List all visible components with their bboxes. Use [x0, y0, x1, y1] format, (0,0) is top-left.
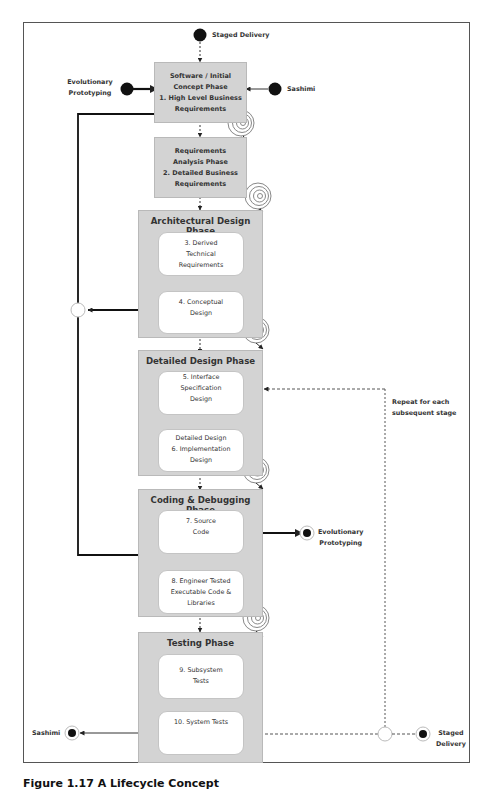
step-conceptual-design: 4. Conceptual Design	[158, 291, 244, 334]
phase-title: Detailed Design Phase	[139, 356, 262, 366]
text-line: Tests	[193, 676, 209, 687]
text-line: 8. Engineer Tested	[171, 576, 230, 587]
step-implementation-design: Detailed Design 6. Implementation Design	[158, 429, 244, 472]
phase-detailed-design: Detailed Design Phase 5. Interface Speci…	[138, 350, 263, 476]
text-line: Design	[190, 308, 212, 319]
text-line: 3. Derived	[184, 238, 217, 249]
step-system-tests: 10. System Tests	[158, 711, 244, 755]
text-line: Software / Initial	[170, 71, 231, 82]
step-interface-specification-design: 5. Interface Specification Design	[158, 371, 244, 415]
label-line: Delivery	[436, 739, 466, 750]
text-line: Detailed Design	[176, 433, 227, 444]
label-line: Prototyping	[318, 538, 363, 549]
label-line: Evolutionary	[66, 77, 114, 88]
text-line: 4. Conceptual	[179, 297, 223, 308]
staged-delivery-bottom-label: Staged Delivery	[436, 728, 466, 750]
text-line: Libraries	[187, 598, 215, 609]
phase-requirements-analysis: Requirements Analysis Phase 2. Detailed …	[154, 137, 247, 198]
text-line: Design	[190, 394, 212, 405]
label-line: Repeat for each	[392, 397, 456, 408]
text-line: Requirements	[175, 179, 226, 190]
step-source-code: 7. Source Code	[158, 510, 244, 554]
text-line: Analysis Phase	[173, 157, 228, 168]
label-line: subsequent stage	[392, 408, 456, 419]
text-line: 7. Source	[186, 516, 216, 527]
text-line: Requirements	[175, 146, 226, 157]
phase-text: Software / Initial Concept Phase 1. High…	[155, 66, 246, 119]
text-line: 10. System Tests	[174, 717, 228, 728]
text-line: Specification	[180, 383, 221, 394]
staged-delivery-top-label: Staged Delivery	[212, 30, 270, 41]
text-line: Requirements	[179, 260, 223, 271]
phase-text: Requirements Analysis Phase 2. Detailed …	[155, 141, 246, 194]
text-line: Requirements	[175, 104, 226, 115]
phase-title: Testing Phase	[139, 638, 262, 648]
text-line: 2. Detailed Business	[163, 168, 238, 179]
step-derived-technical-requirements: 3. Derived Technical Requirements	[158, 232, 244, 276]
text-line: Concept Phase	[173, 82, 227, 93]
step-engineer-tested-code: 8. Engineer Tested Executable Code & Lib…	[158, 570, 244, 614]
text-line: 5. Interface	[183, 372, 220, 383]
text-line: 6. Implementation	[172, 444, 231, 455]
step-subsystem-tests: 9. Subsystem Tests	[158, 654, 244, 699]
text-line: 9. Subsystem	[179, 665, 222, 676]
text-line: Technical	[186, 249, 215, 260]
label-line: Prototyping	[66, 88, 114, 99]
repeat-note: Repeat for each subsequent stage	[392, 397, 456, 419]
phase-architectural-design: Architectural Design Phase 3. Derived Te…	[138, 210, 263, 338]
text-line: Code	[193, 527, 209, 538]
phase-initial-concept: Software / Initial Concept Phase 1. High…	[154, 62, 247, 123]
label-line: Staged	[436, 728, 466, 739]
phase-coding-debugging: Coding & Debugging Phase 7. Source Code …	[138, 489, 263, 617]
phase-testing: Testing Phase 9. Subsystem Tests 10. Sys…	[138, 632, 263, 763]
label-line: Evolutionary	[318, 527, 363, 538]
staged-delivery-top-dot	[194, 29, 207, 42]
sashimi-exit-label: Sashimi	[32, 728, 60, 739]
figure-caption: Figure 1.17 A Lifecycle Concept	[23, 777, 219, 790]
evolutionary-prototyping-exit-label: Evolutionary Prototyping	[318, 527, 363, 549]
text-line: 1. High Level Business	[159, 93, 242, 104]
evolutionary-prototyping-entry-label: Evolutionary Prototyping	[66, 77, 114, 99]
text-line: Design	[190, 455, 212, 466]
text-line: Executable Code &	[171, 587, 232, 598]
sashimi-entry-label: Sashimi	[287, 84, 315, 95]
